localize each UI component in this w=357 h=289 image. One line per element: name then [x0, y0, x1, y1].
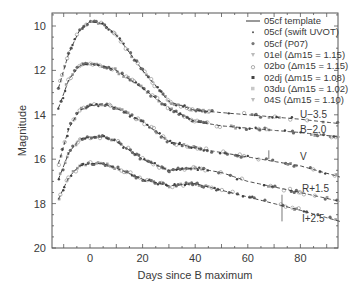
- x-tick-label: 80: [294, 252, 306, 264]
- band-label: V: [300, 151, 307, 162]
- legend-entry: 04S (Δm15 = 1.10): [264, 94, 344, 105]
- band-label: U−3.5: [300, 109, 327, 120]
- legend-entry: 02dj (Δm15 = 1.08): [264, 72, 345, 83]
- x-tick-label: 20: [136, 252, 148, 264]
- x-axis-label: Days since B maximum: [138, 269, 253, 281]
- legend-entry: 02bo (Δm15 = 1.15): [264, 60, 348, 71]
- legend-entry: 05cf (swift UVOT): [264, 26, 339, 37]
- y-tick-label: 20: [34, 242, 46, 254]
- band-label: I+2.5: [302, 213, 325, 224]
- x-tick-label: 60: [242, 252, 254, 264]
- x-tick-label: 40: [189, 252, 201, 264]
- y-tick-label: 14: [34, 109, 46, 121]
- band-label: B−2.0: [300, 124, 327, 135]
- legend-entry: 05cf template: [264, 15, 321, 26]
- series-r-1-5: [58, 134, 340, 202]
- y-tick-label: 10: [34, 20, 46, 32]
- y-tick-label: 12: [34, 64, 46, 76]
- x-tick-label: 0: [87, 252, 93, 264]
- y-tick-label: 18: [34, 198, 46, 210]
- band-label: R+1.5: [302, 183, 329, 194]
- legend-entry: 01el (Δm15 = 1.15): [264, 49, 345, 60]
- legend-entry: 05cf (P07): [264, 38, 308, 49]
- legend-entry: 03du (Δm15 = 1.02): [264, 83, 348, 94]
- y-axis-label: Magnitude: [16, 105, 28, 156]
- light-curve-chart: 020406080101214161820Days since B maximu…: [0, 0, 357, 289]
- y-tick-label: 16: [34, 153, 46, 165]
- legend: 05cf template05cf (swift UVOT)05cf (P07)…: [246, 15, 348, 105]
